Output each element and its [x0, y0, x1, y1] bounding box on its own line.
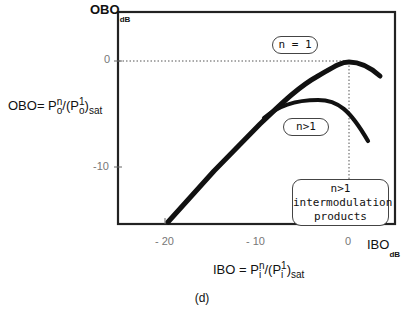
x-tick-label-minus20: - 20	[155, 235, 174, 247]
x-axis-title: IBOdB	[367, 237, 400, 255]
x-tick-label-0: 0	[345, 235, 351, 247]
annotation-n-equals-1: n = 1	[272, 36, 318, 54]
y-formula-sub-sat: sat	[89, 105, 102, 116]
annotation-intermodulation-products: n>1 intermodulation products	[292, 179, 389, 226]
figure-caption: (d)	[0, 291, 404, 305]
annotation-n-greater-than-1: n>1	[283, 118, 329, 136]
y-formula-mid: /(P	[62, 98, 79, 113]
y-formula-lhs: OBO= P	[8, 98, 57, 113]
y-tick-label-minus10: -10	[93, 160, 109, 172]
x-axis-unit: dB	[389, 250, 400, 259]
y-axis-unit: dB	[120, 15, 131, 24]
y-tick-label-0: 0	[104, 53, 110, 65]
x-tick-label-minus10: - 10	[246, 235, 265, 247]
y-formula-sub-o: o	[57, 106, 63, 115]
plot-area	[0, 0, 404, 319]
x-formula-mid: /(P	[264, 262, 281, 277]
x-formula-sub-i2: i	[281, 270, 287, 279]
imd-line-1: n>1	[293, 182, 388, 196]
x-formula-sub-sat: sat	[291, 269, 304, 280]
x-formula-sub-i: i	[259, 270, 265, 279]
y-axis-formula: OBO= Pno/(P1o)sat	[8, 98, 102, 116]
x-axis-title-text: IBO	[367, 237, 389, 252]
x-formula-lhs: IBO = P	[213, 262, 259, 277]
imd-line-2: intermodulation	[293, 196, 388, 210]
x-axis-formula: IBO = Pni/(P1i)sat	[213, 262, 304, 280]
y-axis-title: OBOdB	[90, 2, 130, 20]
y-formula-sub-o2: o	[79, 106, 85, 115]
imd-line-3: products	[293, 210, 388, 224]
y-axis-title-text: OBO	[90, 2, 120, 17]
